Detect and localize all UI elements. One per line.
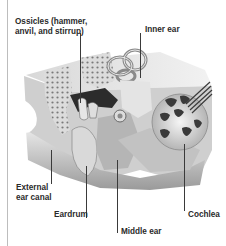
label-external-ear-canal: External ear canal xyxy=(16,183,48,202)
label-middle-ear: Middle ear xyxy=(121,227,162,237)
cochlea-leader-line xyxy=(184,144,185,211)
label-external-line2: ear canal xyxy=(16,193,48,203)
label-inner-ear: Inner ear xyxy=(145,25,180,35)
external-canal-leader-line xyxy=(51,150,52,184)
label-ossicles-line1: Ossicles (hammer, xyxy=(15,17,87,27)
middle-ear-leader-line xyxy=(117,160,118,233)
label-ossicles-line2: anvil, and stirrup) xyxy=(15,27,87,37)
label-eardrum: Eardrum xyxy=(54,210,88,220)
inner-ear-leader-line xyxy=(140,33,141,78)
label-cochlea: Cochlea xyxy=(188,210,220,220)
label-ossicles: Ossicles (hammer, anvil, and stirrup) xyxy=(15,17,87,36)
ossicles-leader-line xyxy=(80,33,81,103)
label-external-line1: External xyxy=(16,183,48,193)
